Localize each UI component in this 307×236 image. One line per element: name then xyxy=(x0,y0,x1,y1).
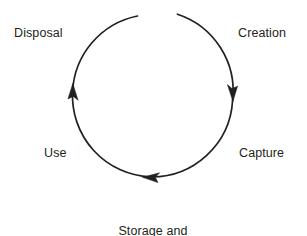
node-label-storage-and-maintenance: Storage and maintenance xyxy=(92,194,214,236)
arrowhead-left-icon xyxy=(142,173,159,183)
arc-capture-to-storage xyxy=(150,101,233,177)
node-label-use: Use xyxy=(44,146,67,161)
lifecycle-cycle-diagram: Disposal Creation Capture Use Storage an… xyxy=(0,0,307,236)
arc-storage-to-use xyxy=(73,92,150,177)
arc-use-to-disposal xyxy=(73,16,138,92)
node-label-storage-line1: Storage and xyxy=(92,224,214,236)
arc-creation-to-capture xyxy=(178,14,234,100)
node-label-creation: Creation xyxy=(238,26,286,41)
node-label-disposal: Disposal xyxy=(14,26,63,41)
node-label-capture: Capture xyxy=(239,146,284,161)
